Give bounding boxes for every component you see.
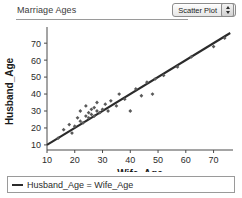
data-point: [106, 109, 110, 113]
x-axis-title: Wife_Age: [117, 168, 163, 172]
stepper-up-icon[interactable]: [226, 6, 230, 9]
plot-area: 1020304050607010203040506070 Wife_AgeHus…: [0, 20, 242, 172]
plot-type-dropdown[interactable]: Scatter Plot: [172, 3, 236, 17]
x-tick-label: 70: [209, 155, 219, 165]
data-point: [95, 101, 99, 105]
data-point: [67, 123, 71, 127]
axis-title-layer: Wife_AgeHusband_Age: [4, 57, 163, 172]
x-tick-label: 30: [98, 155, 108, 165]
data-point: [84, 104, 88, 108]
data-point: [117, 92, 121, 96]
y-tick-label: 60: [31, 56, 41, 66]
scatter-plot-panel: Marriage Ages Scatter Plot 1020304050607…: [0, 0, 242, 198]
legend-line-swatch: [12, 184, 23, 186]
data-point: [139, 94, 143, 98]
plot-type-selected-label: Scatter Plot: [178, 6, 221, 15]
x-tick-label: 40: [125, 155, 135, 165]
data-point: [115, 104, 119, 108]
scatter-plot-svg: 1020304050607010203040506070 Wife_AgeHus…: [0, 20, 242, 172]
y-tick-label: 70: [31, 39, 41, 49]
data-point: [70, 131, 74, 135]
identity-reference-line: [47, 33, 230, 145]
data-point: [62, 128, 66, 132]
legend: Husband_Age = Wife_Age: [7, 176, 235, 193]
y-tick-label: 30: [31, 106, 41, 116]
data-point: [109, 99, 113, 103]
x-tick-label: 20: [70, 155, 80, 165]
page-title: Marriage Ages: [17, 5, 76, 15]
stepper-icon[interactable]: [221, 3, 234, 17]
y-tick-label: 40: [31, 89, 41, 99]
y-tick-label: 20: [31, 123, 41, 133]
data-point: [128, 109, 132, 113]
chart-header: Marriage Ages Scatter Plot: [0, 0, 242, 22]
y-tick-label: 10: [31, 140, 41, 150]
reference-line-layer: [47, 33, 230, 145]
data-point: [76, 116, 80, 120]
data-point: [103, 102, 107, 106]
stepper-down-icon[interactable]: [226, 11, 230, 14]
y-axis-title: Husband_Age: [4, 57, 15, 125]
x-tick-label: 60: [181, 155, 191, 165]
data-point: [212, 45, 216, 49]
data-point: [78, 109, 82, 113]
x-tick-label: 50: [153, 155, 163, 165]
legend-item-label: Husband_Age = Wife_Age: [27, 180, 133, 190]
data-point: [151, 92, 155, 96]
y-tick-label: 50: [31, 72, 41, 82]
x-tick-label: 10: [42, 155, 52, 165]
